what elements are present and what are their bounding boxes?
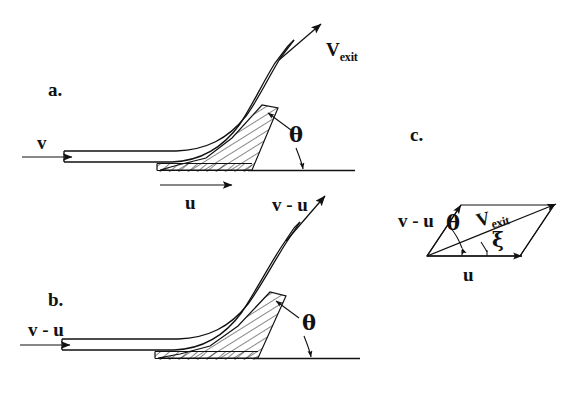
panel-b-theta-label: θ bbox=[302, 312, 316, 333]
panel-b-theta-leader-ground bbox=[304, 336, 311, 357]
panel-a-blade-speed-label: u bbox=[185, 193, 196, 212]
panel-c-relative-velocity-arrow-right bbox=[520, 205, 554, 256]
panel-c-relative-label: v - u bbox=[398, 211, 434, 230]
panel-a-theta-leader-ground bbox=[296, 148, 303, 169]
panel-a-exit-label: Vexit bbox=[326, 40, 358, 63]
panel-b-inlet-label: v - u bbox=[28, 320, 64, 339]
panel-c-theta-label: θ bbox=[446, 212, 460, 233]
panel-b-exit-label: v - u bbox=[272, 195, 308, 214]
panel-c-blade-speed-label: u bbox=[463, 265, 474, 284]
panel-c-letter: c. bbox=[410, 125, 423, 144]
panel-b-drawing bbox=[20, 196, 360, 368]
panel-c-xi-arc bbox=[481, 242, 487, 252]
figure-canvas: a. v u Vexit θ b. v - u v - u θ c. v - u… bbox=[0, 0, 570, 396]
panel-a-drawing bbox=[22, 24, 355, 185]
panel-c-xi-label: ξ bbox=[492, 230, 504, 250]
panel-a-letter: a. bbox=[48, 80, 62, 99]
panel-a-theta-label: θ bbox=[289, 124, 303, 145]
panel-a-exit-arrow bbox=[279, 24, 321, 60]
panel-b-letter: b. bbox=[48, 290, 63, 309]
panel-a-inlet-label: v bbox=[37, 133, 47, 152]
panel-a-exit-tip-cap bbox=[288, 40, 294, 46]
panel-a-exit-base: V bbox=[326, 39, 340, 60]
panel-a-exit-subscript: exit bbox=[340, 50, 358, 64]
